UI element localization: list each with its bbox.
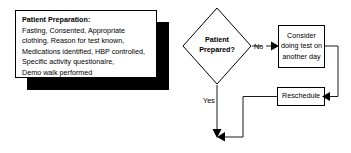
connector-consider-to-reschedule [325,46,338,97]
connector-layer [0,0,351,153]
connector-reschedule-to-junction [225,97,277,138]
arrowhead-to-consider [271,42,279,51]
arrowhead-to-reschedule [322,92,330,101]
flowchart-canvas: Patient Preparation: Fasting, Consented,… [0,0,351,153]
